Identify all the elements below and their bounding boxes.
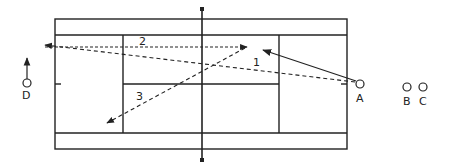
player-d-marker [23,79,31,87]
shot-1-path [45,45,355,82]
shot-1-label: 1 [253,57,260,68]
player-b-label: B [403,96,411,107]
net-post-bottom [200,158,204,162]
shot-3-label: 3 [136,91,143,102]
player-a-marker [356,80,364,88]
court [55,19,347,149]
players [23,79,427,91]
player-b-marker [403,83,411,91]
player-a-label: A [356,93,364,104]
shot-3-path [107,48,245,123]
net-post-top [200,7,204,11]
player-c-marker [419,83,427,91]
player-c-label: C [419,96,427,107]
tennis-court-diagram [0,0,451,167]
shot-2-label: 2 [139,36,146,47]
player-d-label: D [22,90,30,101]
